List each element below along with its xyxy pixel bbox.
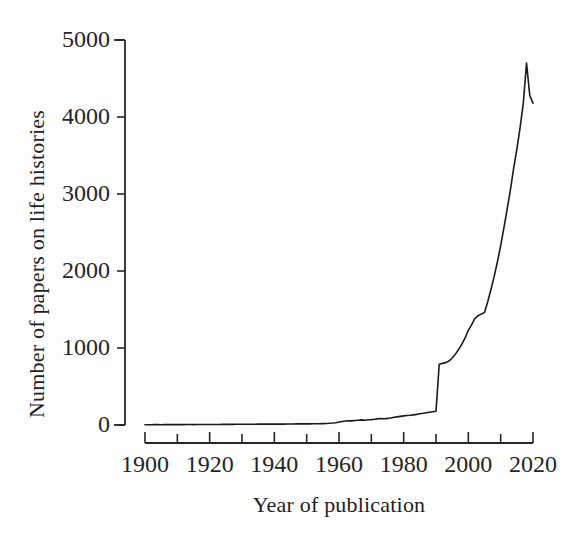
x-tick-label-1980: 1980: [368, 452, 440, 476]
x-axis-ticks: [145, 432, 533, 443]
y-axis-title: Number of papers on life histories: [24, 18, 50, 418]
x-tick-label-2020: 2020: [497, 452, 569, 476]
chart-figure: 010002000300040005000 190019201940196019…: [0, 0, 578, 534]
x-tick-label-2000: 2000: [432, 452, 504, 476]
y-axis-ticks: [117, 40, 125, 425]
x-tick-label-1960: 1960: [303, 452, 375, 476]
x-axis-title: Year of publication: [145, 492, 533, 518]
data-series-line: [145, 63, 533, 425]
x-tick-label-1920: 1920: [174, 452, 246, 476]
x-tick-label-1940: 1940: [238, 452, 310, 476]
x-tick-label-1900: 1900: [109, 452, 181, 476]
